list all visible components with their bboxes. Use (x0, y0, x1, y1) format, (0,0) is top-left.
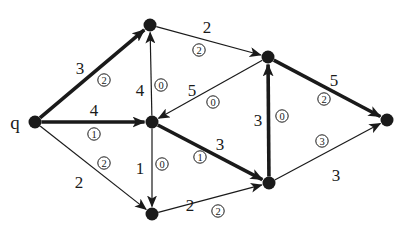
node-f (381, 114, 394, 127)
edge-flow-badge: 0 (207, 96, 219, 108)
edge-flow-badge: 0 (155, 79, 167, 91)
edge-flow-badge: 1 (194, 151, 206, 163)
edge-capacity-label: 1 (136, 159, 145, 178)
edge-flow-badge: 2 (98, 157, 110, 169)
edge-capacity-label: 5 (188, 81, 197, 100)
edge-flow-value: 2 (196, 45, 201, 56)
edge-flow-badge: 2 (193, 44, 205, 56)
edge-capacity-label: 5 (330, 71, 339, 90)
edge-flow-badge: 3 (316, 135, 328, 147)
edge-capacity-label: 3 (332, 166, 341, 185)
edge-flow-value: 2 (215, 206, 220, 217)
edge-flow-badge: 2 (318, 93, 330, 105)
edge-capacity-label: 4 (136, 81, 145, 100)
edge-flow-value: 0 (158, 80, 163, 91)
edge-capacity-label: 2 (75, 173, 84, 192)
edge-b-to-a (150, 32, 152, 115)
edge-e-to-d (268, 64, 269, 176)
source-node-label: q (10, 112, 20, 133)
edge-flow-value: 2 (101, 158, 106, 169)
node-b (146, 116, 159, 129)
node-e (263, 177, 276, 190)
edge-capacity-label: 3 (216, 135, 225, 154)
edge-flow-value: 0 (210, 97, 215, 108)
node-a (144, 19, 157, 32)
edge-c-to-e (158, 185, 261, 212)
labels-layer: 324122401022503130225233 (75, 18, 341, 218)
edge-flow-badge: 0 (156, 158, 168, 170)
edge-capacity-label: 2 (186, 196, 195, 215)
edge-flow-badge: 2 (98, 74, 110, 86)
edge-capacity-label: 3 (254, 111, 263, 130)
edge-d-to-f (274, 60, 381, 116)
edge-flow-value: 2 (321, 94, 326, 105)
edge-flow-value: 2 (101, 75, 106, 86)
node-q (29, 116, 42, 129)
flow-network-diagram: 324122401022503130225233 q (0, 0, 403, 239)
edge-flow-value: 1 (197, 152, 202, 163)
node-c (146, 208, 159, 221)
edge-flow-value: 1 (91, 129, 96, 140)
edges-layer (40, 27, 380, 213)
edge-flow-value: 0 (159, 159, 164, 170)
edge-capacity-label: 3 (76, 59, 85, 78)
edge-capacity-label: 2 (203, 18, 212, 37)
edge-flow-badge: 0 (276, 110, 288, 122)
edge-e-to-f (275, 124, 381, 180)
node-d (262, 51, 275, 64)
nodes-layer: q (10, 19, 393, 221)
edge-d-to-b (159, 60, 263, 118)
edge-b-to-e (158, 125, 263, 180)
edge-flow-badge: 1 (88, 128, 100, 140)
edge-capacity-label: 4 (90, 101, 99, 120)
edge-flow-value: 0 (279, 111, 284, 122)
edge-flow-value: 3 (319, 136, 324, 147)
edge-flow-badge: 2 (212, 205, 224, 217)
